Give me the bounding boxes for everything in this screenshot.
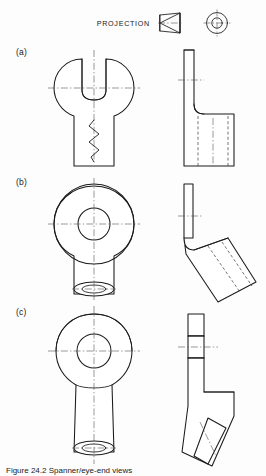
concentric-circles-icon — [202, 8, 232, 38]
row-label-a: (a) — [16, 47, 27, 57]
spanner-open-jaw-front-view — [46, 44, 142, 166]
projection-label: PROJECTION — [97, 19, 150, 28]
spanner-open-jaw-side-view — [178, 44, 258, 166]
eye-end-front-view — [46, 176, 142, 302]
eye-end-side-view — [178, 176, 264, 302]
projection-header: PROJECTION — [0, 8, 266, 38]
truncated-cone-icon — [156, 10, 198, 36]
tapered-eye-sectioned-side-view — [178, 306, 264, 466]
figure-caption: Figure 24.2 Spanner/eye-end views — [6, 466, 260, 475]
tapered-eye-front-view — [46, 306, 142, 466]
row-label-b: (b) — [16, 177, 27, 187]
row-label-c: (c) — [16, 307, 27, 317]
drawing-sheet: PROJECTION (a) — [0, 0, 266, 476]
